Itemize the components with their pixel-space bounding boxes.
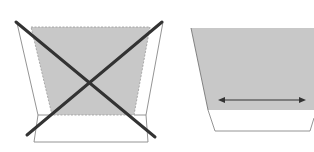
- right-panel-correct: [191, 28, 314, 131]
- left-gray-shape: [31, 27, 150, 115]
- diagram-stage: [0, 0, 314, 152]
- left-flap-outline-right: [146, 22, 163, 142]
- right-base-outline: [208, 110, 314, 131]
- diagram-svg: [0, 0, 314, 152]
- left-panel-incorrect: [16, 22, 163, 142]
- right-gray-shape: [191, 28, 314, 110]
